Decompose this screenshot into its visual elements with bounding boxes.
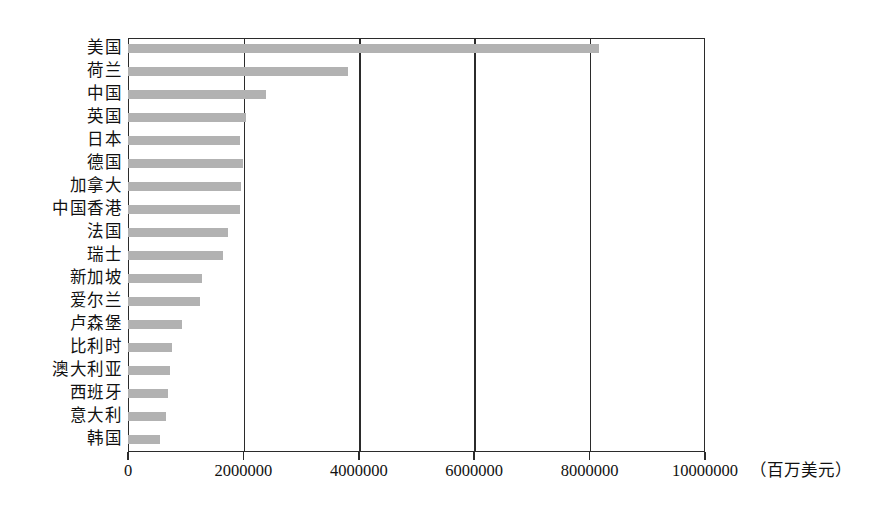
bar-row [128,360,705,383]
bar [128,67,348,76]
category-label: 加拿大 [0,174,122,197]
bar [128,205,240,214]
category-label: 法国 [0,220,122,243]
category-label: 瑞士 [0,243,122,266]
category-label: 澳大利亚 [0,358,122,381]
bar [128,389,168,398]
bar [128,366,170,375]
bar-row [128,199,705,222]
bar [128,44,599,53]
bar [128,297,200,306]
bar-row [128,153,705,176]
x-tick-label: 10000000 [672,458,738,484]
bar [128,274,202,283]
bar-row [128,406,705,429]
category-label: 荷兰 [0,59,122,82]
category-label: 爱尔兰 [0,289,122,312]
bar-row [128,291,705,314]
bar [128,182,241,191]
category-axis-labels: 美国荷兰中国英国日本德国加拿大中国香港法国瑞士新加坡爱尔兰卢森堡比利时澳大利亚西… [0,38,122,452]
bar-row [128,107,705,130]
category-label: 比利时 [0,335,122,358]
x-tick-label: 4000000 [330,458,388,484]
category-label: 卢森堡 [0,312,122,335]
bar [128,251,223,260]
category-label: 韩国 [0,427,122,450]
bar-row [128,222,705,245]
bar-row [128,176,705,199]
x-tick-label: 6000000 [445,458,503,484]
bar-row [128,337,705,360]
category-label: 中国香港 [0,197,122,220]
bar-row [128,268,705,291]
bar-row [128,61,705,84]
category-label: 新加坡 [0,266,122,289]
bar-row [128,314,705,337]
bar-row [128,130,705,153]
x-axis-unit-label: （百万美元） [750,458,852,484]
horizontal-bar-chart: 美国荷兰中国英国日本德国加拿大中国香港法国瑞士新加坡爱尔兰卢森堡比利时澳大利亚西… [0,0,890,518]
bar-row [128,429,705,452]
bar [128,228,228,237]
bar [128,343,172,352]
bar [128,159,243,168]
category-label: 西班牙 [0,381,122,404]
bar-row [128,84,705,107]
bar [128,90,266,99]
category-label: 德国 [0,151,122,174]
bar-row [128,38,705,61]
bar-row [128,245,705,268]
category-label: 英国 [0,105,122,128]
bar [128,435,160,444]
bar [128,320,182,329]
value-axis-labels: 0200000040000006000000800000010000000（百万… [0,458,890,488]
category-label: 中国 [0,82,122,105]
bar [128,412,166,421]
bar [128,113,246,122]
x-tick-label: 0 [124,458,132,484]
x-tick-label: 8000000 [561,458,619,484]
x-tick-label: 2000000 [215,458,273,484]
bar [128,136,240,145]
bar-row [128,383,705,406]
category-label: 意大利 [0,404,122,427]
category-label: 日本 [0,128,122,151]
category-label: 美国 [0,36,122,59]
bars-layer [128,38,705,452]
